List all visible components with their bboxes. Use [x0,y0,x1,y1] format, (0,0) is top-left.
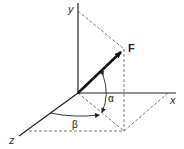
z-axis [19,93,78,136]
force-diagram: y x z F α β [0,0,184,149]
force-vector-F [78,52,121,93]
force-label-F: F [128,42,135,54]
beta-label: β [72,119,78,130]
y-axis-label: y [67,3,75,15]
z-axis-label: z [8,134,15,146]
x-axis-label: x [169,94,176,106]
alpha-label: α [108,93,114,104]
beta-arc [50,113,99,116]
